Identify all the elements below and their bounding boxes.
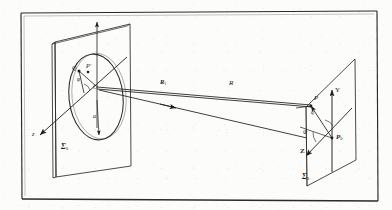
label-observation-point-P: P [314, 95, 318, 102]
p0-subscript: 0 [340, 136, 342, 141]
figure-border [21, 11, 378, 201]
diffraction-geometry-figure: Q P′ φ O a z Σ0 R1 R P Y q Φ P0 Z Σ0 [0, 0, 392, 210]
figure-canvas [0, 0, 392, 210]
label-aperture-point-p-prime: P′ [86, 63, 91, 69]
sigma-subscript: 0 [307, 176, 309, 181]
label-observation-angle-q: q [311, 110, 314, 116]
label-observation-plane-sigma: Σ0 [302, 173, 309, 181]
label-left-axis-z: z [32, 131, 34, 137]
label-observation-axis-Z: Z [300, 148, 305, 155]
label-source-point-Q: Q [72, 65, 76, 71]
ray-R [99, 90, 307, 138]
label-aperture-origin-O: O [93, 84, 97, 90]
label-observation-angle-phi: Φ [303, 130, 307, 136]
r1-subscript: 1 [164, 81, 166, 86]
label-ray-R: R [229, 80, 233, 87]
label-aperture-angle-phi: φ [77, 77, 80, 83]
sigma0-subscript: 0 [66, 146, 68, 151]
label-ray-R1: R1 [160, 79, 166, 86]
label-observation-axis-Y: Y [335, 87, 340, 94]
label-aperture-plane-sigma0: Σ0 [61, 143, 68, 151]
label-observation-origin-P0: P0 [336, 134, 342, 141]
aperture-screen-plane [52, 24, 131, 178]
observation-screen-plane [306, 59, 356, 186]
aperture-axes [40, 22, 127, 135]
label-aperture-radius-a: a [93, 113, 96, 119]
